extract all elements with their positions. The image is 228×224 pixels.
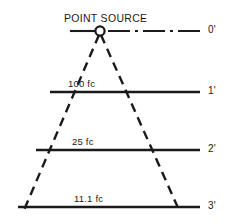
illuminance-label-3ft: 11.1 fc — [74, 194, 103, 204]
illuminance-label-2ft: 25 fc — [72, 137, 94, 147]
distance-label-2ft: 2' — [208, 144, 216, 154]
illuminance-label-1ft: 100 fc — [68, 79, 95, 89]
distance-label-1ft: 1' — [208, 86, 216, 96]
page-title: POINT SOURCE — [64, 13, 147, 24]
left-ray-dashed — [24, 35, 99, 210]
distance-label-0ft: 0' — [208, 25, 216, 35]
diagram-canvas — [0, 0, 228, 224]
right-ray-dashed — [101, 35, 179, 210]
point-source-circle — [95, 26, 104, 35]
distance-label-3ft: 3' — [208, 201, 216, 211]
point-source-diagram: POINT SOURCE 100 fc 25 fc 11.1 fc 0' 1' … — [0, 0, 228, 224]
